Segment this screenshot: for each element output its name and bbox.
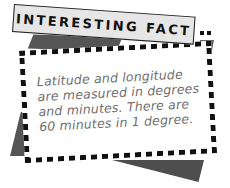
border-tick-decoration <box>200 31 204 35</box>
fact-text: Latitude and longitude are measured in d… <box>36 66 203 135</box>
fact-card: Latitude and longitude are measured in d… <box>19 41 217 163</box>
header-title: INTERESTING FACT <box>16 11 192 38</box>
border-tick-decoration <box>207 31 211 35</box>
shadow-shape-bottom <box>112 160 204 182</box>
